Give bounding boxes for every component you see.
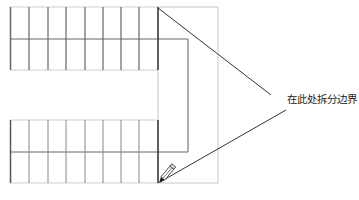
leader-line-top [158, 8, 271, 95]
upper-stair-flight [10, 7, 188, 70]
annotation-label: 在此处拆分边界 [287, 91, 357, 106]
lower-stair-flight [10, 120, 188, 183]
leader-line-bottom [160, 110, 286, 182]
